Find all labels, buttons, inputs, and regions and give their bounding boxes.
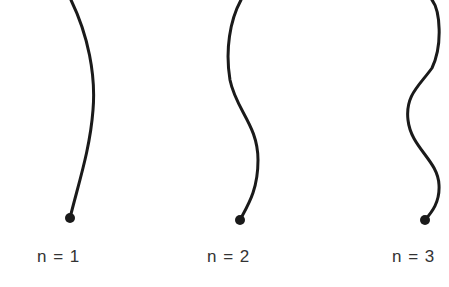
mode-3-group <box>408 0 440 225</box>
mode-1-anchor-dot <box>65 213 75 223</box>
mode-3-anchor-dot <box>420 215 430 225</box>
mode-3-curve <box>408 0 440 220</box>
mode-2-curve <box>228 0 258 220</box>
mode-1-group <box>65 0 94 223</box>
mode-3-label: n = 3 <box>392 247 435 267</box>
mode-1-curve <box>70 0 94 218</box>
mode-2-label: n = 2 <box>207 247 250 267</box>
mode-2-anchor-dot <box>235 215 245 225</box>
mode-2-group <box>228 0 258 225</box>
mode-1-label: n = 1 <box>37 247 80 267</box>
standing-wave-modes-figure <box>0 0 449 287</box>
